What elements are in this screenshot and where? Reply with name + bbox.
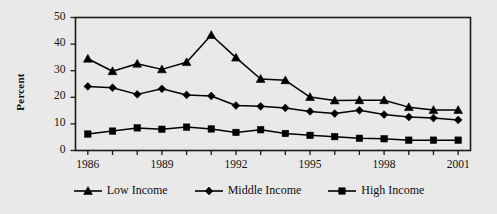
data-point [430, 114, 438, 122]
data-point [109, 128, 115, 134]
data-point [454, 116, 462, 124]
data-point [183, 124, 189, 130]
x-tick-label: 1998 [360, 158, 408, 170]
legend-item-low-income[interactable]: Low Income [73, 183, 168, 198]
x-tick-label: 1989 [138, 158, 186, 170]
data-point [257, 127, 263, 133]
data-point [306, 93, 315, 101]
data-point [207, 31, 216, 39]
chart-legend: Low IncomeMiddle IncomeHigh Income [0, 183, 497, 198]
data-point [257, 102, 265, 110]
data-point [406, 137, 412, 143]
legend-item-middle-income[interactable]: Middle Income [194, 183, 302, 198]
data-point [133, 90, 141, 98]
data-point [84, 82, 92, 90]
data-point [380, 111, 388, 119]
data-point [183, 91, 191, 99]
data-point [158, 85, 166, 93]
y-axis-title: Percent [14, 52, 26, 132]
y-tick-label: 0 [40, 143, 66, 155]
data-point [281, 104, 289, 112]
plot-area [0, 0, 497, 214]
y-tick-label: 30 [40, 63, 66, 75]
data-point [455, 137, 461, 143]
x-tick-label: 1992 [212, 158, 260, 170]
data-point [232, 102, 240, 110]
data-point [109, 84, 117, 92]
legend-label: High Income [361, 183, 424, 198]
series-low-income [83, 31, 462, 114]
legend-item-high-income[interactable]: High Income [327, 183, 424, 198]
legend-label: Low Income [107, 183, 168, 198]
y-tick-label: 50 [40, 10, 66, 22]
data-point [159, 126, 165, 132]
x-tick-label: 1986 [64, 158, 112, 170]
y-tick-label: 40 [40, 36, 66, 48]
square-marker-icon [327, 185, 357, 197]
data-point [331, 110, 339, 118]
data-point [405, 113, 413, 121]
data-point [207, 92, 215, 100]
y-tick-label: 10 [40, 116, 66, 128]
data-point [282, 130, 288, 136]
series-high-income [85, 124, 462, 143]
triangle-marker-icon [73, 185, 103, 197]
data-point [356, 135, 362, 141]
data-point [356, 106, 364, 114]
legend-label: Middle Income [228, 183, 302, 198]
x-tick-label: 1995 [286, 158, 334, 170]
data-point [430, 137, 436, 143]
data-point [133, 59, 142, 67]
data-point [208, 126, 214, 132]
data-point [85, 131, 91, 137]
chart-figure: Percent 01020304050 19861989199219951998… [0, 0, 497, 214]
y-tick-label: 20 [40, 89, 66, 101]
data-point [233, 129, 239, 135]
data-point [83, 54, 92, 62]
data-point [306, 107, 314, 115]
data-point [307, 132, 313, 138]
diamond-marker-icon [194, 185, 224, 197]
x-tick-label: 2001 [434, 158, 482, 170]
data-point [134, 125, 140, 131]
data-point [381, 136, 387, 142]
series-middle-income [84, 82, 462, 123]
data-point [332, 133, 338, 139]
data-series-layer [83, 31, 462, 144]
